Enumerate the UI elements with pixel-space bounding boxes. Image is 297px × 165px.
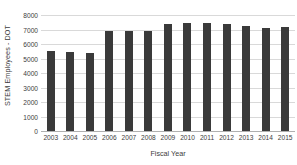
bar[interactable] — [262, 28, 270, 131]
bar-series — [41, 15, 295, 131]
bar-slot — [197, 15, 217, 131]
y-axis-tick-label: 2000 — [23, 99, 38, 106]
bar-slot — [139, 15, 159, 131]
x-axis-title: Fiscal Year — [41, 149, 295, 158]
bar-slot — [158, 15, 178, 131]
plot-area — [41, 15, 295, 131]
bar-slot — [80, 15, 100, 131]
x-axis-tick-label: 2012 — [217, 134, 237, 144]
bar-slot — [119, 15, 139, 131]
y-axis-tick-label: 6000 — [23, 41, 38, 48]
bar[interactable] — [183, 23, 191, 131]
y-axis-tick-label: 0 — [34, 128, 38, 135]
bar-slot — [275, 15, 295, 131]
bar[interactable] — [66, 52, 74, 131]
bar[interactable] — [86, 53, 94, 131]
bar[interactable] — [281, 27, 289, 131]
y-axis-tick-label: 4000 — [23, 70, 38, 77]
x-axis-tick-label: 2003 — [41, 134, 61, 144]
x-axis-tick-label: 2005 — [80, 134, 100, 144]
x-axis-tick-label: 2006 — [100, 134, 120, 144]
x-axis-tick-label: 2014 — [256, 134, 276, 144]
bar-chart: STEM Employees - DOT 0100020003000400050… — [0, 0, 297, 165]
x-axis-tick-label: 2008 — [139, 134, 159, 144]
x-axis-tick-label: 2011 — [197, 134, 217, 144]
x-axis-tick-labels: 2003200420052006200720082009201020112012… — [41, 134, 295, 144]
bar-slot — [178, 15, 198, 131]
bar[interactable] — [242, 26, 250, 131]
y-axis-tick-label: 8000 — [23, 12, 38, 19]
bar-slot — [100, 15, 120, 131]
bar-slot — [256, 15, 276, 131]
bar[interactable] — [144, 31, 152, 131]
axis-baseline — [41, 131, 295, 132]
x-axis-tick-label: 2004 — [61, 134, 81, 144]
bar[interactable] — [223, 24, 231, 131]
bar[interactable] — [47, 51, 55, 131]
x-axis-tick-label: 2013 — [236, 134, 256, 144]
bar-slot — [217, 15, 237, 131]
y-axis-tick-label: 7000 — [23, 26, 38, 33]
y-axis-tick-label: 1000 — [23, 113, 38, 120]
x-axis-tick-label: 2010 — [178, 134, 198, 144]
y-axis-tick-labels: 010002000300040005000600070008000 — [14, 15, 40, 131]
bar[interactable] — [164, 24, 172, 131]
bar-slot — [41, 15, 61, 131]
x-axis-tick-label: 2015 — [275, 134, 295, 144]
bar[interactable] — [105, 31, 113, 131]
bar[interactable] — [125, 31, 133, 131]
bar[interactable] — [203, 23, 211, 131]
bar-slot — [61, 15, 81, 131]
y-axis-title: STEM Employees - DOT — [0, 0, 14, 131]
y-axis-tick-label: 5000 — [23, 55, 38, 62]
y-axis-tick-label: 3000 — [23, 84, 38, 91]
x-axis-tick-label: 2009 — [158, 134, 178, 144]
bar-slot — [236, 15, 256, 131]
x-axis-tick-label: 2007 — [119, 134, 139, 144]
